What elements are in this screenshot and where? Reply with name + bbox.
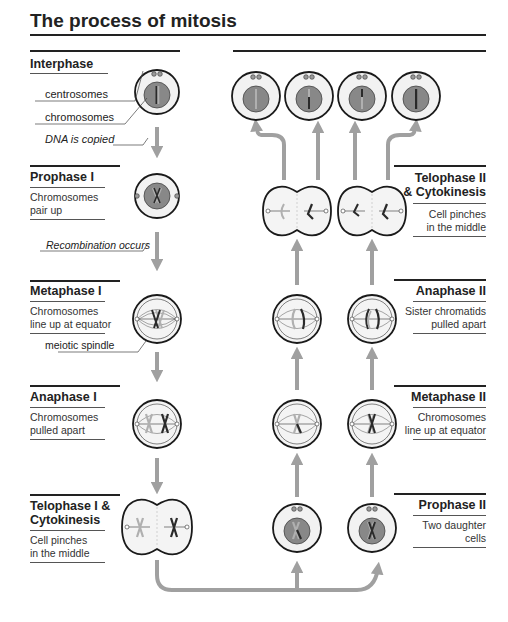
- prophase2-cell-b: [348, 504, 396, 552]
- divider: [394, 165, 486, 167]
- divider: [30, 530, 105, 531]
- prophase1-desc-2: pair up: [30, 204, 62, 217]
- metaphase1-cell: [133, 295, 181, 343]
- telophase2-desc-1: Cell pinches: [429, 208, 486, 221]
- telophase1-desc-1: Cell pinches: [30, 534, 87, 547]
- divider: [394, 493, 486, 495]
- anaphase2-cell-b: [348, 295, 396, 343]
- divider: [413, 301, 486, 302]
- prophase2-heading: Prophase II: [419, 498, 486, 513]
- telophase1-desc-2: in the middle: [30, 547, 90, 560]
- metaphase1-heading: Metaphase I: [30, 284, 102, 299]
- divider: [30, 73, 108, 74]
- metaphase2-cell-b: [348, 400, 396, 448]
- divider: [30, 407, 105, 408]
- daughter-cell-4: [392, 72, 440, 120]
- divider: [413, 333, 486, 334]
- daughter-cell-1: [232, 72, 280, 120]
- prophase2-cell-a: [273, 504, 321, 552]
- interphase-heading: Interphase: [30, 57, 93, 72]
- prophase1-cell: [135, 174, 180, 218]
- chromosomes-label: chromosomes: [45, 111, 114, 123]
- telophase2-heading-1: Telophase II: [415, 171, 486, 186]
- anaphase2-heading: Anaphase II: [416, 284, 486, 299]
- meiotic-spindle-label: meiotic spindle: [45, 339, 114, 351]
- telophase1-heading-2: Cytokinesis: [30, 513, 100, 528]
- telophase1-heading-1: Telophase I &: [30, 499, 110, 514]
- divider: [30, 187, 105, 188]
- anaphase1-desc-1: Chromosomes: [30, 411, 98, 424]
- divider: [30, 333, 105, 334]
- daughter-cell-3: [338, 72, 386, 120]
- prophase1-heading: Prophase I: [30, 170, 94, 185]
- divider: [413, 203, 486, 204]
- anaphase2-desc-1: Sister chromatids: [405, 305, 486, 318]
- telophase1-cell: [122, 500, 192, 554]
- prophase1-desc-1: Chromosomes: [30, 191, 98, 204]
- anaphase2-desc-2: pulled apart: [431, 318, 486, 331]
- metaphase1-desc-1: Chromosomes: [30, 305, 98, 318]
- centrosomes-label: centrosomes: [45, 88, 108, 100]
- telophase2-cell-a: [263, 187, 331, 236]
- anaphase1-desc-2: pulled apart: [30, 424, 85, 437]
- divider: [30, 494, 120, 496]
- telophase2-desc-2: in the middle: [426, 221, 486, 234]
- telophase2-cell-b: [338, 187, 406, 236]
- anaphase1-cell: [133, 400, 181, 448]
- divider: [413, 236, 486, 237]
- divider: [413, 407, 486, 408]
- metaphase2-heading: Metaphase II: [411, 390, 486, 405]
- recombination-note: Recombination occurs: [46, 239, 150, 251]
- divider: [394, 279, 486, 281]
- prophase2-desc-2: cells: [465, 532, 486, 545]
- divider: [30, 301, 105, 302]
- metaphase2-cell-a: [273, 400, 321, 448]
- divider: [30, 562, 105, 563]
- divider: [413, 515, 486, 516]
- metaphase2-desc-2: line up at equator: [405, 424, 486, 437]
- dna-copied-note: DNA is copied: [45, 133, 114, 145]
- metaphase2-desc-1: Chromosomes: [418, 411, 486, 424]
- daughter-cell-2: [285, 72, 333, 120]
- prophase2-desc-1: Two daughter: [422, 519, 486, 532]
- divider: [394, 385, 486, 387]
- divider: [413, 439, 486, 440]
- divider: [30, 280, 120, 282]
- anaphase1-heading: Anaphase I: [30, 390, 97, 405]
- divider: [30, 165, 120, 167]
- anaphase2-cell-a: [273, 295, 321, 343]
- divider: [30, 385, 120, 387]
- metaphase1-desc-2: line up at equator: [30, 318, 111, 331]
- divider: [30, 219, 105, 220]
- divider: [30, 439, 105, 440]
- divider: [413, 547, 486, 548]
- telophase2-heading-2: & Cytokinesis: [403, 185, 486, 200]
